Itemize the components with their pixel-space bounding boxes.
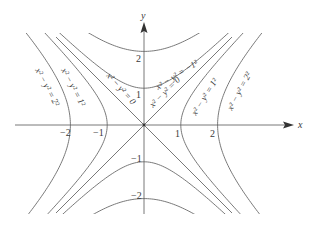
label-left-outer: x² − y² = 2² [33,65,62,108]
curve-k1-left [10,0,107,229]
y-tick-neg2: −2 [131,190,142,201]
label-left-zero: x² − y² = 0 [104,70,139,107]
label-right-outer: x² − y² = 2² [224,70,253,113]
y-tick-2: 2 [136,53,141,64]
x-tick-neg1: −1 [93,127,104,138]
label-right-inner: x² − y² = 1² [189,76,220,118]
origin-dot [143,124,146,127]
x-tick-1: 1 [175,128,180,139]
level-curves [0,0,292,229]
hyperbola-level-curves-diagram: x y −2 −1 1 2 2 1 −1 −2 x² − y² = 2² x² … [0,0,311,229]
x-axis-label: x [297,119,303,130]
y-axis-label: y [140,10,146,21]
curve-k4-right [218,0,293,229]
y-tick-neg1: −1 [131,153,142,164]
x-tick-2: 2 [210,128,215,139]
curve-k4-left [0,0,70,229]
label-left-inner: x² − y² = 1² [59,65,88,108]
x-tick-neg2: −2 [60,127,71,138]
